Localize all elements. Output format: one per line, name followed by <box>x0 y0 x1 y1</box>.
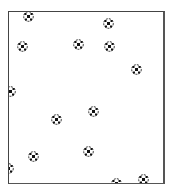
soccer-ball-glyph <box>103 18 114 29</box>
game-field[interactable] <box>8 11 165 184</box>
soccer-ball-icon[interactable] <box>8 86 16 97</box>
soccer-ball-glyph <box>8 163 14 174</box>
soccer-ball-icon[interactable] <box>51 114 62 125</box>
soccer-ball-glyph <box>104 41 115 52</box>
soccer-ball-icon[interactable] <box>111 178 122 184</box>
soccer-ball-glyph <box>83 146 94 157</box>
soccer-ball-glyph <box>8 86 16 97</box>
soccer-ball-icon[interactable] <box>28 151 39 162</box>
soccer-ball-glyph <box>17 41 28 52</box>
soccer-ball-icon[interactable] <box>17 41 28 52</box>
soccer-ball-glyph <box>51 114 62 125</box>
soccer-ball-glyph <box>88 106 99 117</box>
soccer-ball-icon[interactable] <box>104 41 115 52</box>
soccer-ball-glyph <box>111 178 122 184</box>
soccer-ball-glyph <box>73 39 84 50</box>
soccer-ball-icon[interactable] <box>103 18 114 29</box>
soccer-ball-icon[interactable] <box>8 163 14 174</box>
soccer-ball-glyph <box>131 64 142 75</box>
soccer-ball-glyph <box>28 151 39 162</box>
soccer-ball-glyph <box>23 11 34 22</box>
soccer-ball-icon[interactable] <box>131 64 142 75</box>
soccer-ball-glyph <box>138 174 149 184</box>
soccer-ball-icon[interactable] <box>23 11 34 22</box>
soccer-ball-icon[interactable] <box>73 39 84 50</box>
soccer-ball-icon[interactable] <box>88 106 99 117</box>
soccer-ball-icon[interactable] <box>83 146 94 157</box>
soccer-ball-icon[interactable] <box>138 174 149 184</box>
